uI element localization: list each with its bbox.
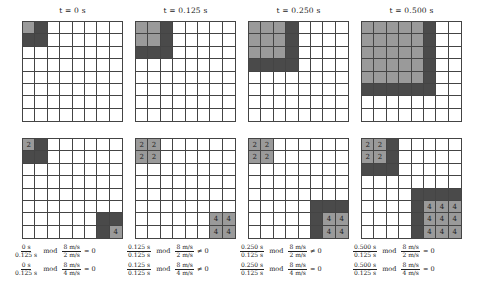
grid-cell bbox=[323, 34, 335, 46]
grid-cell bbox=[311, 84, 323, 96]
grid-cell: 4 bbox=[436, 201, 448, 213]
grid-cell bbox=[362, 213, 374, 225]
grid-cell bbox=[412, 151, 424, 163]
grid-cell bbox=[311, 109, 323, 121]
grid-cell: 2 bbox=[136, 139, 148, 151]
grid-cell bbox=[249, 96, 261, 108]
denominator: 4 m/s bbox=[62, 270, 81, 277]
grid-cell bbox=[35, 176, 47, 188]
grid-cell bbox=[186, 189, 198, 201]
grid-cell bbox=[436, 139, 448, 151]
grid-cell bbox=[374, 96, 386, 108]
grid-cell bbox=[73, 34, 85, 46]
grid-cell bbox=[249, 72, 261, 84]
grid-cell bbox=[73, 189, 85, 201]
grid-cell bbox=[161, 22, 173, 34]
grid-cell bbox=[261, 176, 273, 188]
grid-cell bbox=[210, 96, 222, 108]
time-ratio: 0.500 s0.125 s bbox=[353, 244, 377, 258]
grid-cell bbox=[23, 164, 35, 176]
grid-cell bbox=[161, 139, 173, 151]
grid-cell bbox=[110, 176, 122, 188]
grid-cell bbox=[387, 213, 399, 225]
grid-cell bbox=[323, 164, 335, 176]
panel-title: t = 0.250 s bbox=[248, 6, 349, 15]
grid-cell bbox=[424, 176, 436, 188]
grid-cell bbox=[249, 59, 261, 71]
grid-cell bbox=[198, 84, 210, 96]
grid-cell bbox=[97, 72, 109, 84]
grid-cell bbox=[286, 109, 298, 121]
equations: 0.125 s0.125 smod8 m/s2 m/s≠ 00.125 s0.1… bbox=[127, 242, 247, 278]
grid-cell bbox=[148, 59, 160, 71]
grid-cell bbox=[161, 201, 173, 213]
grid-cell bbox=[173, 176, 185, 188]
grid-cell bbox=[323, 96, 335, 108]
grid-cell bbox=[60, 84, 72, 96]
mod-operator: mod bbox=[156, 247, 170, 255]
grid-cell bbox=[336, 72, 348, 84]
grid-cell bbox=[60, 213, 72, 225]
grid-cell bbox=[261, 96, 273, 108]
grid-cell bbox=[161, 213, 173, 225]
grid-cell bbox=[23, 34, 35, 46]
grid-cell bbox=[223, 176, 235, 188]
grid-cell bbox=[274, 139, 286, 151]
grid-cell: 2 bbox=[374, 139, 386, 151]
grid-cell bbox=[198, 59, 210, 71]
grid-cell bbox=[223, 22, 235, 34]
grid-cell bbox=[173, 72, 185, 84]
grid-cell: 4 bbox=[424, 226, 436, 238]
grid-cell bbox=[198, 72, 210, 84]
grid-cell bbox=[387, 72, 399, 84]
grid-cell bbox=[323, 189, 335, 201]
grid-cell bbox=[399, 47, 411, 59]
grid-cell: 4 bbox=[449, 201, 461, 213]
grid-cell bbox=[387, 189, 399, 201]
grid-cell bbox=[85, 47, 97, 59]
grid-cell bbox=[323, 72, 335, 84]
grid-cell bbox=[449, 96, 461, 108]
grid-cell bbox=[399, 213, 411, 225]
grid-cell bbox=[412, 47, 424, 59]
grid-cell bbox=[97, 201, 109, 213]
grid-cell bbox=[161, 109, 173, 121]
grid-cell bbox=[449, 109, 461, 121]
denominator: 0.125 s bbox=[127, 252, 151, 259]
grid-cell bbox=[148, 164, 160, 176]
grid-cell bbox=[249, 201, 261, 213]
grid-cell bbox=[60, 72, 72, 84]
mod-equation: 0 s0.125 smod8 m/s2 m/s= 0 bbox=[14, 242, 134, 260]
grid-cell bbox=[60, 34, 72, 46]
grid-cell bbox=[286, 96, 298, 108]
relation: ≠ 0 bbox=[197, 247, 209, 255]
grid-cell bbox=[136, 164, 148, 176]
grid-cell bbox=[48, 34, 60, 46]
grid-cell bbox=[35, 96, 47, 108]
grid-cell: 2 bbox=[249, 151, 261, 163]
grid-cell bbox=[85, 189, 97, 201]
grid-cell: 4 bbox=[436, 226, 448, 238]
grid-cell bbox=[210, 151, 222, 163]
grid-cell bbox=[299, 226, 311, 238]
grid-cell bbox=[399, 72, 411, 84]
grid-cell bbox=[97, 22, 109, 34]
grid-cell bbox=[97, 189, 109, 201]
grid-cell bbox=[35, 72, 47, 84]
grid-cell bbox=[286, 34, 298, 46]
grid-cell bbox=[261, 189, 273, 201]
grid-cell bbox=[299, 164, 311, 176]
grid-cell bbox=[374, 189, 386, 201]
grid-cell bbox=[362, 164, 374, 176]
grid-cell bbox=[336, 47, 348, 59]
grid-cell bbox=[60, 22, 72, 34]
grid-cell bbox=[148, 226, 160, 238]
grid-cell bbox=[399, 164, 411, 176]
grid-cell bbox=[136, 34, 148, 46]
grid-cell bbox=[223, 96, 235, 108]
grid-cell bbox=[48, 226, 60, 238]
grid-cell bbox=[210, 84, 222, 96]
grid-cell bbox=[210, 47, 222, 59]
grid-cell bbox=[261, 226, 273, 238]
grid-cell bbox=[274, 34, 286, 46]
